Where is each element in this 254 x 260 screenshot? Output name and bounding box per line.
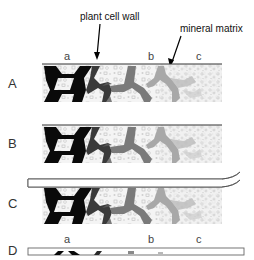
diagram: plant cell wall mineral matrix A a b c B…	[0, 0, 254, 260]
panel-d-sublabel-b: b	[148, 233, 154, 245]
arrow-mineral-matrix	[172, 36, 181, 62]
panel-a-sublabel-c: c	[196, 50, 202, 62]
panel-b-label: B	[8, 136, 17, 151]
arrowhead-cell-wall-icon	[94, 52, 100, 60]
panel-c-label: C	[8, 196, 17, 211]
panel-c: C	[8, 172, 240, 224]
panel-a: A a b c	[8, 50, 222, 102]
panel-a-sublabel-b: b	[148, 50, 154, 62]
arrow-cell-wall	[97, 24, 100, 56]
annotation-mineral-matrix: mineral matrix	[180, 23, 243, 34]
panel-d-sublabel-c: c	[196, 233, 202, 245]
panel-d-label: D	[8, 243, 17, 258]
panel-d: D a b c	[8, 233, 244, 258]
panel-d-sublabel-a: a	[64, 233, 71, 245]
panel-b: B	[8, 125, 222, 163]
annotation-plant-cell-wall: plant cell wall	[80, 11, 139, 22]
panel-a-sublabel-a: a	[64, 50, 71, 62]
panel-a-label: A	[8, 76, 17, 91]
